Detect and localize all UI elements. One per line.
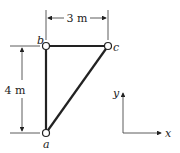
node-label-b: b [37,34,44,47]
dimension-label-4m: 4 m [5,84,26,97]
node-label-a: a [43,138,50,151]
coordinate-axes: y x [112,87,172,140]
member-ac [46,46,108,133]
truss-diagram: 3 m 4 m b c a y x [0,0,180,153]
dimension-vertical: 4 m [5,46,40,133]
node-c [105,43,112,50]
x-axis-label: x [165,127,172,140]
dimension-horizontal: 3 m [46,10,108,40]
node-a [43,130,50,137]
truss-members [46,46,108,133]
node-label-c: c [113,41,119,54]
dimension-label-3m: 3 m [67,12,88,25]
y-axis-label: y [112,87,120,100]
